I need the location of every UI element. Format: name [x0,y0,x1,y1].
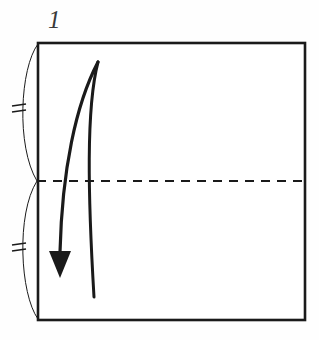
lower-equal-tick-1 [12,243,26,245]
step-number: 1 [48,6,61,33]
upper-edge-measure-arc [23,44,38,181]
origami-diagram-canvas: 1 [0,0,319,340]
origami-diagram: 1 [0,0,319,340]
lower-equal-tick-2 [12,249,26,251]
upper-equal-tick-1 [12,104,26,106]
upper-equal-tick-2 [12,110,26,112]
lower-edge-measure-arc [23,181,38,319]
